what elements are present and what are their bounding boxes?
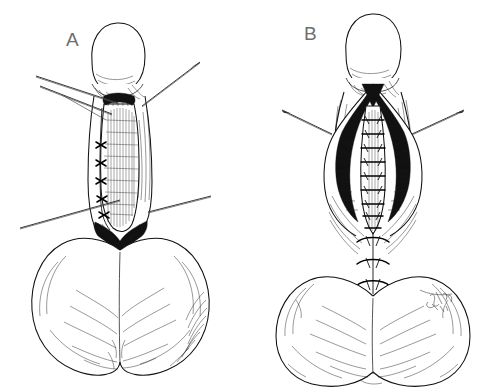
illustration-canvas xyxy=(0,0,481,388)
panel-label-a: A xyxy=(66,30,79,49)
figure-root: A B xyxy=(0,0,481,388)
panel-label-b: B xyxy=(304,24,317,43)
panel-a-glans xyxy=(92,23,145,101)
panel-b-neourethra xyxy=(361,106,386,234)
panel-a-incision xyxy=(101,104,139,231)
panel-a-scrotum xyxy=(32,238,209,375)
